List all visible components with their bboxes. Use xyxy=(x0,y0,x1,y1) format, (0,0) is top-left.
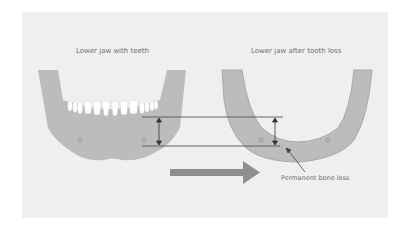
right-jaw xyxy=(222,70,372,162)
jaw-diagram xyxy=(0,0,408,230)
height-indicator-right xyxy=(273,118,278,145)
direction-arrow-icon xyxy=(170,161,260,184)
left-jaw xyxy=(38,70,186,160)
